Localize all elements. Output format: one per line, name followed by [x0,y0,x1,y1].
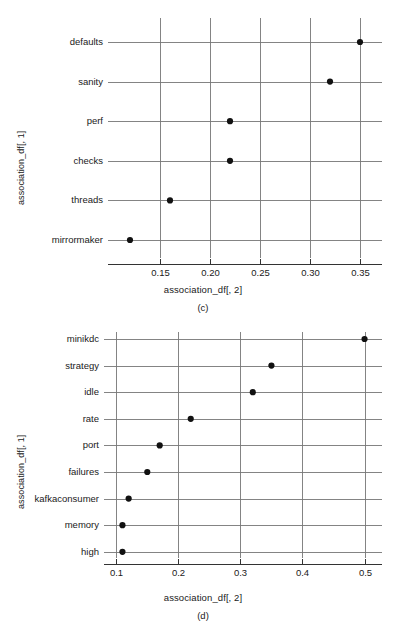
x-axis-tick-label: 0.4 [296,567,309,578]
data-point [327,79,333,85]
y-axis-tick-label: perf [87,115,104,126]
x-axis-tick-label: 0.2 [172,567,185,578]
y-axis-tick-label: sanity [78,76,103,87]
x-axis-tick-label: 0.3 [234,567,247,578]
data-point [361,336,367,342]
x-axis-label-c: association_df[, 2] [0,284,406,295]
y-axis-tick-label: port [83,439,100,450]
y-axis-tick-label: failures [68,466,99,477]
data-point [126,496,132,502]
figure-d-panel: association_df[, 1] minikdcstrategyidler… [0,314,406,628]
figure-caption-d: (d) [0,610,406,621]
y-axis-tick-label: high [81,546,99,557]
y-axis-tick-label: memory [65,519,100,530]
data-point [127,237,133,243]
y-axis-tick-label: threads [71,194,103,205]
scatter-plot-d: minikdcstrategyidlerateportfailureskafka… [0,314,406,628]
y-axis-tick-label: idle [84,386,99,397]
data-point [119,522,125,528]
x-axis-tick-label: 0.20 [201,267,220,278]
data-point [188,416,194,422]
data-point [144,469,150,475]
y-axis-tick-label: kafkaconsumer [35,493,99,504]
data-point [227,118,233,124]
plot-area-c: association_df[, 1] defaultssanityperfch… [0,0,406,314]
x-axis-tick-label: 0.1 [110,567,123,578]
scatter-plot-c: defaultssanityperfchecksthreadsmirrormak… [0,0,406,314]
x-axis-tick-label: 0.15 [151,267,170,278]
x-axis-tick-label: 0.30 [301,267,320,278]
y-axis-tick-label: strategy [65,360,99,371]
data-point [227,158,233,164]
y-axis-tick-label: mirrormaker [52,234,103,245]
figure-c-panel: association_df[, 1] defaultssanityperfch… [0,0,406,314]
data-point [167,197,173,203]
x-axis-tick-label: 0.35 [351,267,370,278]
x-axis-label-d: association_df[, 2] [0,592,406,603]
data-point [357,39,363,45]
plot-area-d: association_df[, 1] minikdcstrategyidler… [0,314,406,628]
y-axis-tick-label: defaults [70,36,104,47]
figure-caption-c: (c) [0,302,406,313]
x-axis-tick-label: 0.5 [359,567,372,578]
data-point [250,389,256,395]
y-axis-tick-label: minikdc [67,333,99,344]
y-axis-tick-label: rate [83,413,99,424]
y-axis-tick-label: checks [73,155,103,166]
data-point [268,363,274,369]
data-point [119,549,125,555]
x-axis-tick-label: 0.25 [251,267,270,278]
data-point [157,442,163,448]
